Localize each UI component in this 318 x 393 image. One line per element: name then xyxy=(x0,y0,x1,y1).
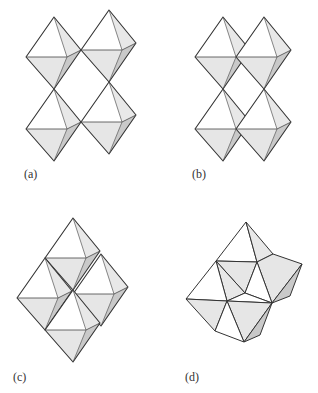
panel-b-corner-sharing-offset xyxy=(195,17,291,161)
octahedra-figure xyxy=(0,0,318,393)
panel-a-corner-sharing xyxy=(26,10,136,161)
panel-c-edge-sharing xyxy=(17,218,128,362)
panel-label-d: (d) xyxy=(185,370,199,385)
panel-label-b: (b) xyxy=(192,167,206,182)
panel-label-a: (a) xyxy=(24,167,37,182)
panel-label-c: (c) xyxy=(13,370,26,385)
panel-d-face-sharing xyxy=(186,222,302,342)
